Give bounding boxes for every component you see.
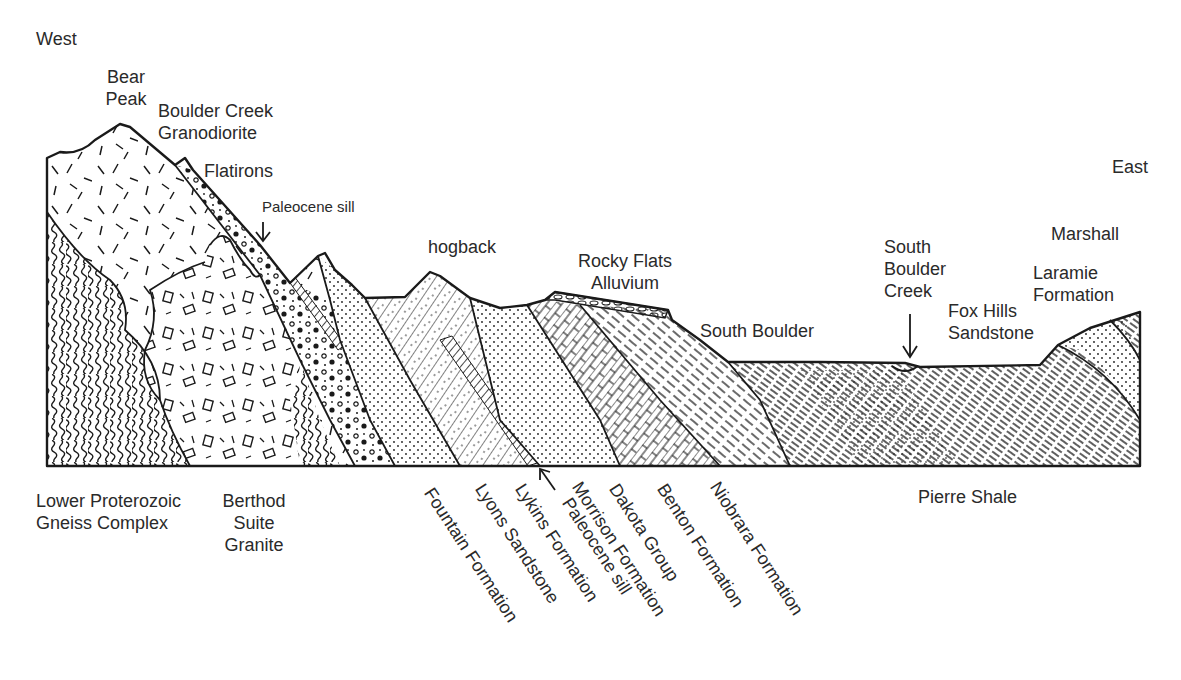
east-label: East [1112, 156, 1148, 178]
paleocene-sill-label-top: Paleocene sill [262, 198, 355, 216]
paleocene-sill-arrow-top [256, 222, 270, 241]
marshall-label: Marshall [1051, 223, 1119, 245]
flatirons-label: Flatirons [204, 160, 273, 182]
boulder-creek-granodiorite-label: Boulder Creek Granodiorite [158, 100, 273, 144]
south-boulder-label: South Boulder [700, 320, 814, 342]
rocky-flats-alluvium-label: Rocky Flats Alluvium [565, 250, 685, 294]
bear-peak-label: Bear Peak [98, 66, 154, 110]
paleocene-sill-arrow-bottom [540, 469, 555, 490]
south-boulder-creek-arrow [903, 314, 917, 357]
berthod-granite-label: Berthod Suite Granite [214, 490, 294, 556]
hogback-label: hogback [428, 236, 496, 258]
west-label: West [36, 28, 77, 50]
fox-hills-sandstone-label: Fox Hills Sandstone [948, 300, 1034, 344]
gneiss-complex-label: Lower Proterozoic Gneiss Complex [36, 490, 181, 534]
laramie-formation-label: Laramie Formation [1033, 262, 1114, 306]
south-boulder-creek-label: South Boulder Creek [884, 236, 946, 302]
pierre-shale-label: Pierre Shale [918, 486, 1017, 508]
